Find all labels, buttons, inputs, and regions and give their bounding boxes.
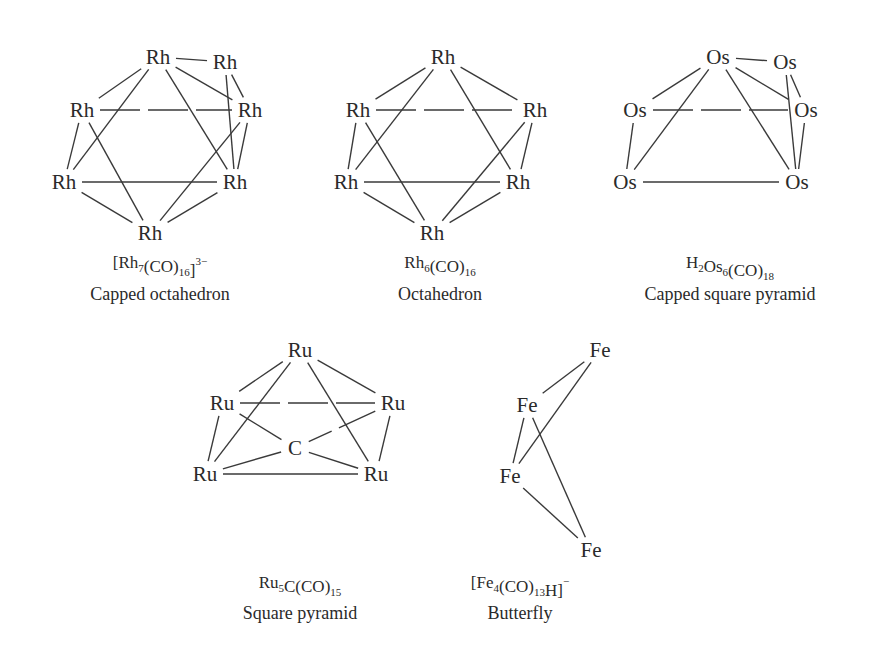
atom-label: Rh (223, 170, 248, 194)
atom-label: Os (785, 170, 808, 194)
bond-line (239, 362, 283, 392)
atom-label: Rh (213, 50, 238, 74)
atom-label: Ru (193, 462, 218, 486)
atom-label: Rh (420, 221, 445, 245)
formula-os6: H2Os6(CO)18 (686, 253, 775, 282)
bond-line (786, 75, 795, 169)
atoms-rh6: RhRhRhRhRhRh (334, 45, 548, 245)
bond-line (799, 123, 805, 169)
bond-line (627, 123, 633, 169)
atom-label: Ru (210, 391, 235, 415)
bond-line (240, 414, 282, 440)
bond-line (533, 418, 586, 538)
atom-label: Fe (590, 338, 611, 362)
bond-line (82, 192, 133, 222)
bond-line (348, 123, 356, 169)
bond-line (168, 193, 218, 223)
atom-label: Os (623, 98, 646, 122)
atom-label: Fe (581, 538, 602, 562)
cluster-os6 (627, 58, 805, 182)
cluster-rh7 (67, 58, 247, 222)
bond-line (653, 68, 701, 99)
atom-label: Rh (334, 170, 359, 194)
bond-line (166, 70, 228, 170)
figure-canvas: RhRhRhRhRhRhRhRhRhRhRhRhRhOsOsOsOsOsOsRu… (0, 0, 883, 648)
atom-label: C (288, 436, 302, 460)
formula-ru5c: Ru5C(CO)15 (259, 573, 342, 598)
atom-label: Rh (70, 98, 95, 122)
bond-line (376, 68, 426, 99)
bond-line (513, 418, 524, 463)
caption-text-rh7: Capped octahedron (90, 284, 229, 304)
atom-label: Rh (138, 221, 163, 245)
formula-rh7: [Rh7(CO)16]3− (113, 253, 207, 280)
bond-line (364, 192, 415, 222)
bond-line (366, 123, 425, 221)
atom-label: Rh (146, 45, 171, 69)
atom-label: Os (773, 50, 796, 74)
bond-line (67, 123, 79, 169)
bond-line (238, 123, 248, 169)
bond-line (208, 416, 219, 461)
atom-label: Rh (506, 170, 531, 194)
atom-label: Rh (52, 170, 77, 194)
bond-line (521, 123, 532, 169)
bond-line (450, 192, 501, 222)
atom-label: Rh (523, 98, 548, 122)
caption-text-rh6: Octahedron (398, 284, 482, 304)
bond-line (232, 75, 244, 98)
caption-text-ru5c: Square pyramid (243, 603, 357, 623)
bond-line (99, 69, 141, 99)
atom-label: Ru (381, 391, 406, 415)
atom-label: Rh (346, 98, 371, 122)
atom-label: Ru (364, 462, 389, 486)
formula-fe4: [Fe4(CO)13H]− (471, 573, 569, 600)
bond-line (308, 363, 369, 462)
cluster-fe4 (513, 362, 591, 538)
cluster-geometry-figure: RhRhRhRhRhRhRhRhRhRhRhRhRhOsOsOsOsOsOsRu… (0, 0, 883, 648)
atom-label: Rh (238, 98, 263, 122)
bond-line (461, 67, 518, 100)
bond-line (223, 452, 281, 469)
caption-text-os6: Capped square pyramid (645, 284, 816, 304)
bond-line (226, 75, 234, 169)
bond-line (543, 362, 585, 393)
bond-line (309, 411, 376, 442)
labels-layer: [Rh7(CO)16]3−Capped octahedronRh6(CO)16O… (90, 253, 815, 623)
bond-line (318, 360, 376, 393)
bond-line (736, 58, 767, 60)
atom-label: Os (613, 170, 636, 194)
bond-line (379, 416, 390, 461)
formula-rh6: Rh6(CO)16 (404, 253, 476, 278)
bond-line (89, 123, 143, 221)
atom-label: Fe (517, 393, 538, 417)
bond-line (309, 452, 358, 468)
caption-text-fe4: Butterfly (488, 603, 553, 623)
atoms-os6: OsOsOsOsOsOs (613, 45, 817, 194)
bond-line (176, 58, 207, 60)
atom-label: Rh (431, 45, 456, 69)
atom-label: Os (794, 98, 817, 122)
cluster-rh6 (348, 67, 532, 222)
atom-label: Fe (500, 464, 521, 488)
bond-line (451, 70, 511, 170)
bond-line (726, 70, 789, 170)
atom-label: Ru (288, 338, 313, 362)
atom-label: Os (706, 45, 729, 69)
bond-line (523, 488, 578, 538)
bond-line (791, 75, 801, 98)
